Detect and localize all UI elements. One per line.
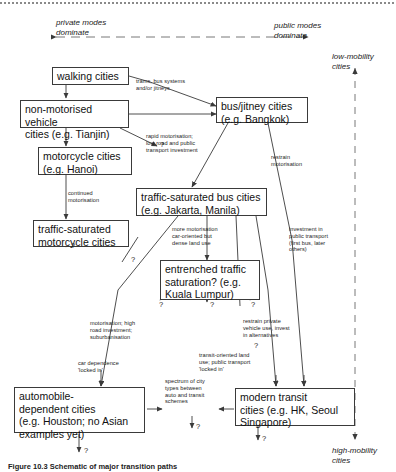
note-restrain-motorisation: restrain motorisation — [271, 154, 302, 168]
note-rapid-motorisation: rapid motorisation; low road and public … — [146, 133, 198, 153]
note-car-dependence-locked-in: car dependence 'locked in' — [78, 360, 119, 374]
box-entrenched-traffic-saturation[interactable]: entrenched traffic saturation? (e.g. Kua… — [160, 260, 260, 300]
question-mark-restrain-private: ? — [254, 341, 258, 350]
note-restrain-private-vehicle: restrain private vehicle use, invest in … — [243, 318, 290, 338]
note-motorisation-suburbanisation: motorisation; high road investment; subu… — [90, 320, 135, 340]
axis-mobility-arrow-down — [352, 434, 357, 440]
question-mark-entrenched-left: ? — [159, 300, 163, 309]
axis-label-high-mobility: high-mobility cities — [332, 446, 377, 465]
box-walking-cities[interactable]: walking cities — [52, 67, 129, 85]
axis-label-private-modes: private modes dominate — [56, 18, 106, 37]
box-traffic-saturated-motorcycle-cities[interactable]: traffic-saturated motorcycle cities — [33, 220, 129, 247]
axis-label-low-mobility: low-mobility cities — [332, 52, 374, 71]
note-more-motorisation: more motorisation car-oriented but dense… — [172, 226, 218, 246]
axis-label-public-modes: public modes dominate — [274, 21, 321, 40]
question-mark-traffic-sat-moto: ? — [71, 241, 75, 250]
box-non-motorised-vehicle-cities[interactable]: non-motorised vehicle cities (e.g. Tianj… — [20, 100, 129, 128]
note-continued-motorisation: continued motorisation — [68, 190, 99, 204]
diagram-canvas: private modes dominate public modes domi… — [0, 0, 396, 472]
box-bus-jitney-cities[interactable]: bus/jitney cities (e.g. Bangkok) — [216, 97, 308, 123]
question-mark-transit-down: ? — [262, 434, 266, 443]
note-investment-public-transport: investment in public transport (first bu… — [289, 226, 328, 253]
question-mark-nmv-branch: ? — [160, 140, 164, 149]
question-mark-entrenched-right: ? — [251, 300, 255, 309]
figure-caption: Figure 10.3 Schematic of major transitio… — [8, 462, 177, 471]
question-mark-spectrum: ? — [196, 422, 200, 431]
box-automobile-dependent-cities[interactable]: automobile- dependent cities (e.g. Houst… — [14, 387, 145, 433]
note-spectrum-of-city-types: spectrum of city types between auto and … — [165, 378, 205, 405]
box-traffic-saturated-bus-cities[interactable]: traffic-saturated bus cities (e.g. Jakar… — [136, 188, 267, 216]
question-mark-diagonal-mid: ? — [131, 255, 135, 264]
question-mark-entrenched-mid: ? — [210, 300, 214, 309]
note-trams-bus-systems: trams, bus systems and/or jitneys — [136, 78, 185, 92]
question-mark-automobile-down: ? — [84, 446, 88, 455]
box-motorcycle-cities[interactable]: motorcycle cities (e.g. Hanoi) — [38, 147, 132, 175]
note-transit-oriented-land-use: transit-oriented land use; public transp… — [199, 352, 250, 372]
box-modern-transit-cities[interactable]: modern transit cities (e.g. HK, Seoul Si… — [235, 388, 355, 426]
